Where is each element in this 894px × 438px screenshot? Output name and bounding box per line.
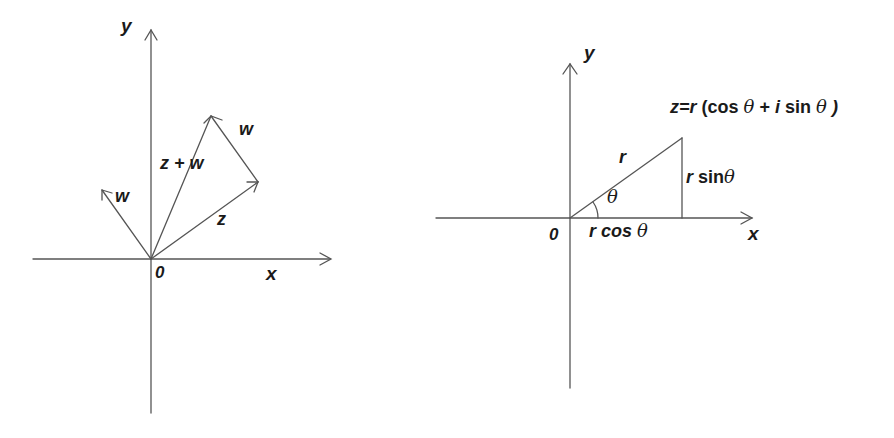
formula-theta-2: θ — [816, 96, 827, 117]
formula-sin: sin — [785, 97, 811, 117]
vector-z-label: z — [217, 210, 226, 228]
adjacent-side-label: r cos θ — [589, 222, 648, 240]
formula-plus: + — [759, 97, 770, 117]
formula-i: i — [775, 97, 780, 117]
vector-z-plus-w-label: z + w — [160, 154, 204, 172]
left-origin-label: 0 — [155, 264, 164, 281]
right-origin-label: 0 — [549, 226, 558, 243]
formula-close: ) — [832, 97, 838, 117]
left-y-axis-label: y — [121, 16, 132, 35]
vector-w-label: w — [115, 187, 129, 205]
opposite-side-label: r sinθ — [686, 168, 735, 186]
diagram-canvas — [0, 0, 894, 438]
hypotenuse-r-label: r — [619, 148, 626, 166]
angle-theta-label: θ — [607, 188, 618, 206]
opposite-sin: sin — [698, 167, 724, 187]
vector-w-translated-label: w — [239, 120, 253, 138]
right-y-axis-label: y — [584, 43, 595, 62]
point-formula-label: z=r (cos θ + i sin θ ) — [670, 98, 838, 116]
formula-open-cos: (cos — [702, 97, 739, 117]
left-axes — [33, 30, 331, 413]
adjacent-theta: θ — [637, 220, 648, 241]
opposite-theta: θ — [724, 166, 735, 187]
formula-theta-1: θ — [744, 96, 755, 117]
opposite-r: r — [686, 167, 693, 187]
adjacent-cos: cos — [601, 221, 632, 241]
right-x-axis-label: x — [748, 224, 759, 243]
formula-lhs: z=r — [670, 97, 697, 117]
adjacent-r: r — [589, 221, 596, 241]
left-x-axis-label: x — [266, 264, 277, 283]
angle-arc — [593, 202, 598, 218]
